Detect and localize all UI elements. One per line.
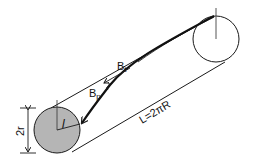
label-bt: Bt	[117, 60, 127, 74]
label-bp: Bp	[89, 87, 101, 101]
label-diameter: 2r	[14, 126, 26, 136]
label-length: L=2πR	[137, 98, 173, 126]
tube-lower-edge	[72, 62, 225, 152]
label-ell: l	[62, 117, 65, 131]
